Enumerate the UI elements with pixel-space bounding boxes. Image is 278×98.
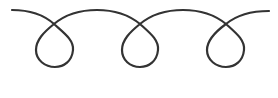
curly-line-path [12,10,269,67]
curly-line-drawing [0,0,278,98]
curly-line-illustration [0,0,278,98]
